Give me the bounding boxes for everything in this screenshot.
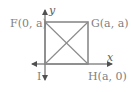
y-axis-label: y [48, 4, 56, 17]
x-axis-label: x [107, 51, 114, 64]
point-G-label: G(a, a) [91, 17, 128, 30]
point-F-label: F(0, a) [10, 17, 47, 30]
point-I-label: I [37, 70, 41, 83]
coordinate-diagram: y x F(0, a) G(a, a) H(a, 0) I [0, 0, 131, 92]
point-H-label: H(a, 0) [88, 70, 127, 83]
